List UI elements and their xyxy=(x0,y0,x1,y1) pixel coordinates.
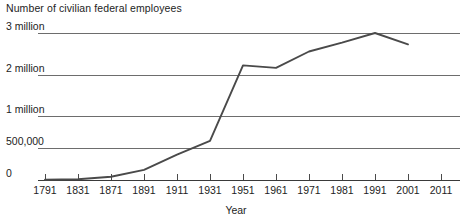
x-axis-tick-label: 1991 xyxy=(363,184,386,196)
x-axis-tick-label: 1911 xyxy=(166,184,189,196)
y-axis-tick-label: 1 million xyxy=(6,103,45,115)
y-axis-tick-label: 500,000 xyxy=(6,135,44,147)
data-line-civilian-federal-employees xyxy=(45,33,408,180)
chart-container: Number of civilian federal employees 050… xyxy=(0,0,472,223)
gridlines xyxy=(38,34,460,149)
x-axis-tick-label: 1831 xyxy=(66,184,89,196)
x-axis-tick-label: 1971 xyxy=(297,184,320,196)
x-axis-tick-label: 1981 xyxy=(330,184,353,196)
x-axis-tick-label: 1951 xyxy=(231,184,254,196)
x-axis-tick-label: 1961 xyxy=(264,184,287,196)
x-axis-tick-label: 1871 xyxy=(99,184,122,196)
x-axis-tick-label: 1791 xyxy=(33,184,56,196)
y-axis-tick-label: 0 xyxy=(6,167,12,179)
x-axis-tick-label: 1931 xyxy=(198,184,221,196)
x-axis-tick-label: 2011 xyxy=(430,184,453,196)
y-axis-tick-label: 2 million xyxy=(6,62,45,74)
x-axis-tick-label: 1891 xyxy=(132,184,155,196)
x-axis-tick-label: 2001 xyxy=(396,184,419,196)
y-axis-tick-label: 3 million xyxy=(6,20,45,32)
x-axis-title: Year xyxy=(225,204,246,216)
